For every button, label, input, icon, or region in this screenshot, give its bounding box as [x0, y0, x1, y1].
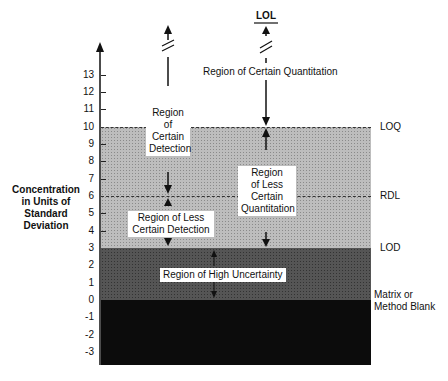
region-certain-detection: Region of Certain Detection: [146, 106, 190, 156]
tick-label: 13: [74, 70, 94, 80]
tick-4: [101, 231, 106, 232]
tick-label: 0: [74, 295, 94, 305]
region-text-line: Detection: [149, 143, 187, 155]
region-text-line: Quantitation: [241, 203, 293, 215]
region-certain-quantitation: Region of Certain Quantitation: [203, 66, 338, 77]
region-text-line: of Less: [241, 179, 293, 191]
region-text-line: Certain: [149, 131, 187, 143]
tick-label: 9: [74, 139, 94, 149]
tick-11: [101, 109, 106, 110]
tick-label: 1: [74, 278, 94, 288]
tick-8: [101, 161, 106, 162]
tick-label: 8: [74, 156, 94, 166]
tick-label: 10: [74, 122, 94, 132]
blank-label-line: Matrix or: [374, 289, 435, 301]
tick-label: 3: [74, 243, 94, 253]
tick-label: 2: [74, 260, 94, 270]
region-text-line: Certain Detection: [131, 224, 211, 236]
tick-7: [101, 179, 106, 180]
y-title-line: Standard: [10, 208, 82, 220]
y-axis-title: Concentration in Units of Standard Devia…: [10, 184, 82, 232]
y-title-line: in Units of: [10, 196, 82, 208]
loq-label: LOQ: [380, 121, 401, 133]
rdl-label: RDL: [380, 190, 400, 202]
tick-label: 7: [74, 174, 94, 184]
region-text-line: Region of Less: [131, 212, 211, 224]
region-text-line: Region: [149, 107, 187, 119]
tick-13: [101, 75, 106, 76]
region-text-line: Certain: [241, 191, 293, 203]
lod-label: LOD: [380, 242, 401, 254]
region-text-line: Region: [241, 167, 293, 179]
region-less-certain-quantitation: Region of Less Certain Quantitation: [238, 166, 296, 216]
tick-9: [101, 144, 106, 145]
tick-label: 11: [74, 104, 94, 114]
y-title-line: Concentration: [10, 184, 82, 196]
blank-label-line: Method Blank: [374, 301, 435, 313]
y-title-line: Deviation: [10, 220, 82, 232]
lol-label: LOL: [253, 10, 279, 21]
region-text-line: of: [149, 119, 187, 131]
tick-5: [101, 213, 106, 214]
tick-label: 12: [74, 87, 94, 97]
tick-label: -3: [74, 347, 94, 357]
tick-12: [101, 92, 106, 93]
tick-label: -2: [74, 330, 94, 340]
region-high-uncertainty: Region of High Uncertainty: [160, 268, 286, 282]
region-less-certain-detection: Region of Less Certain Detection: [128, 211, 214, 237]
tick-label: -1: [74, 312, 94, 322]
blank-label: Matrix or Method Blank: [374, 289, 435, 313]
